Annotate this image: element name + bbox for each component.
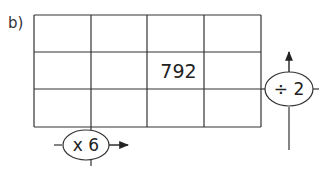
column-operator-label: x 6 <box>73 135 99 155</box>
multiplication-grid-diagram: 792 ÷ 2 x 6 <box>0 0 332 174</box>
row-operator: ÷ 2 <box>261 52 319 150</box>
column-operator: x 6 <box>54 127 128 166</box>
number-grid <box>34 15 261 127</box>
grid-cell-value: 792 <box>160 60 196 82</box>
grid-cells: 792 <box>160 60 196 82</box>
row-operator-label: ÷ 2 <box>274 79 304 99</box>
